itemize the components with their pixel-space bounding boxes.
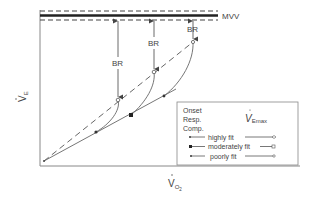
moderately-fit-end-marker-icon: [272, 145, 275, 148]
legend-onset-line-1: Onset: [183, 107, 202, 114]
poorly-fit-onset-marker: [94, 130, 97, 133]
vemax-sub: Emax: [252, 118, 267, 124]
origin-marker: [43, 160, 45, 162]
svg-text:VO2: VO2: [168, 178, 182, 192]
moderately-fit-onset-marker: [129, 113, 133, 117]
moderately-fit-vemax-marker: [152, 70, 156, 74]
poorly-fit-vemax-marker: [116, 98, 120, 102]
br-label-highly-fit: BR: [187, 25, 198, 34]
x-axis-label: VO2: [168, 174, 182, 192]
x-axis-label-dot: [171, 174, 172, 175]
svg-text:VE: VE: [17, 91, 29, 102]
x-axis-label-subsub: 2: [179, 187, 182, 192]
highly-fit-onset-marker: [163, 95, 166, 98]
highly-fit-vemax-marker: [191, 40, 194, 43]
legend-label-poorly-fit: poorly fit: [210, 153, 237, 161]
br-label-poorly-fit: BR: [112, 59, 123, 68]
legend-onset-line-2: Resp.: [183, 116, 201, 124]
vemax-dot: [249, 109, 250, 110]
moderately-fit-curve: [131, 72, 154, 115]
y-axis-label: VE: [15, 91, 29, 102]
moderately-fit-start-marker-icon: [189, 145, 192, 148]
legend: Onset Resp. Comp. VEmax highly fit moder…: [177, 102, 298, 165]
legend-label-moderately-fit: moderately fit: [208, 143, 250, 151]
y-axis-label-sub: E: [23, 91, 29, 95]
mvv-band: [40, 11, 218, 20]
poorly-fit-end-marker-icon: [273, 155, 275, 157]
highly-fit-curve: [164, 42, 193, 96]
legend-label-highly-fit: highly fit: [208, 134, 234, 142]
br-label-moderately-fit: BR: [148, 39, 159, 48]
y-axis-label-dot: [15, 98, 16, 99]
legend-onset-line-3: Comp.: [183, 125, 204, 133]
mvv-label: MVV: [222, 12, 240, 21]
onset-solid-line: [44, 89, 176, 161]
breathing-reserve-arrows: [118, 21, 193, 97]
ventilation-diagram: MVV BR BR BR VE VO2 Onset Resp. Comp.: [0, 0, 312, 204]
